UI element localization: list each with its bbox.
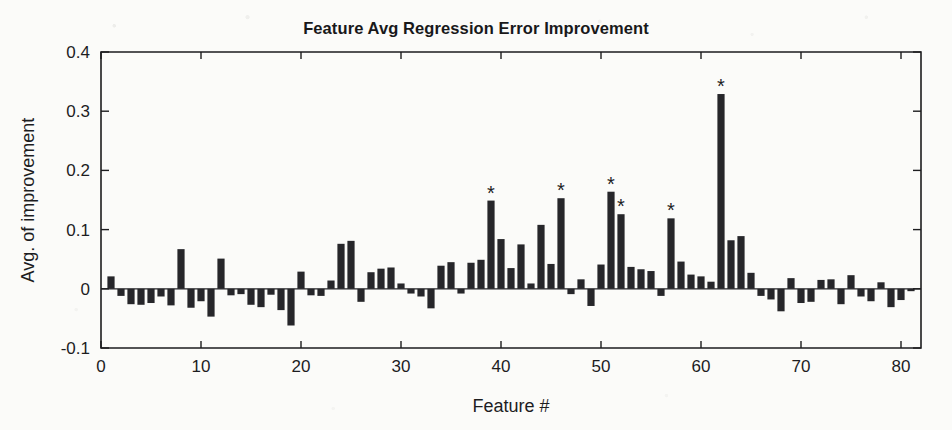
y-tick-label: 0.4	[66, 43, 90, 62]
bar	[187, 289, 194, 308]
bar	[677, 262, 684, 289]
bar	[287, 289, 294, 326]
bar	[477, 260, 484, 289]
x-tick-label: 10	[192, 357, 211, 376]
bar	[417, 289, 424, 297]
bar	[217, 259, 224, 289]
bar	[577, 279, 584, 288]
bar	[877, 282, 884, 289]
bar	[607, 192, 614, 289]
significance-markers-group: ******	[487, 75, 725, 221]
bar	[547, 264, 554, 289]
bar	[537, 225, 544, 289]
bar	[467, 263, 474, 289]
bar	[597, 265, 604, 289]
bar	[737, 236, 744, 289]
bar	[257, 289, 264, 307]
bar	[147, 289, 154, 303]
bar	[857, 289, 864, 297]
bar	[627, 267, 634, 289]
bar	[407, 289, 414, 294]
bars-group	[107, 94, 914, 325]
bar	[317, 289, 324, 296]
y-tick-label: 0.1	[66, 221, 90, 240]
bar	[157, 289, 164, 297]
bar	[387, 267, 394, 288]
x-tick-labels: 01020304050607080	[96, 357, 910, 376]
y-axis-title: Avg. of improvement	[18, 118, 38, 283]
bar	[757, 289, 764, 296]
bar	[107, 276, 114, 288]
bar	[667, 218, 674, 288]
bar	[717, 94, 724, 289]
bar	[227, 289, 234, 296]
bar	[697, 276, 704, 288]
x-tick-label: 40	[492, 357, 511, 376]
bar	[427, 289, 434, 309]
bar	[177, 249, 184, 289]
bar	[807, 289, 814, 302]
bar	[197, 289, 204, 301]
x-tick-label: 50	[592, 357, 611, 376]
significance-star-icon: *	[557, 179, 565, 201]
x-tick-label: 30	[392, 357, 411, 376]
y-tick-label: -0.1	[61, 339, 90, 358]
bar	[347, 241, 354, 289]
bar	[517, 244, 524, 288]
bar	[237, 289, 244, 294]
bar	[837, 289, 844, 304]
bar	[817, 280, 824, 289]
bar	[327, 281, 334, 289]
bar	[447, 262, 454, 289]
bar	[897, 289, 904, 300]
y-tick-label: 0.3	[66, 102, 90, 121]
bar	[497, 239, 504, 289]
bar	[747, 273, 754, 289]
bar	[377, 269, 384, 289]
axes-group	[101, 52, 921, 348]
significance-star-icon: *	[617, 195, 625, 217]
bar	[777, 289, 784, 312]
bar	[557, 198, 564, 289]
x-axis-title: Feature #	[472, 396, 549, 416]
bar	[297, 272, 304, 289]
y-tick-label: 0.2	[66, 161, 90, 180]
bar	[657, 289, 664, 296]
bar	[637, 269, 644, 289]
bar	[647, 271, 654, 289]
bar	[367, 272, 374, 289]
bar	[707, 282, 714, 289]
bar	[847, 275, 854, 289]
bar	[247, 289, 254, 305]
x-tick-label: 70	[792, 357, 811, 376]
bar	[207, 289, 214, 317]
bar	[397, 283, 404, 288]
significance-star-icon: *	[717, 75, 725, 97]
bar	[167, 289, 174, 306]
bar	[267, 289, 274, 295]
significance-star-icon: *	[487, 182, 495, 204]
bar	[117, 289, 124, 296]
bar	[827, 279, 834, 288]
bar	[457, 289, 464, 294]
bar	[797, 289, 804, 303]
x-tick-label: 80	[892, 357, 911, 376]
bar	[127, 289, 134, 304]
bar	[357, 289, 364, 302]
bar-chart-plot: ****** 01020304050607080 -0.100.10.20.30…	[0, 0, 952, 430]
plot-border	[101, 52, 921, 348]
significance-star-icon: *	[667, 199, 675, 221]
x-tick-label: 60	[692, 357, 711, 376]
bar	[137, 289, 144, 305]
y-tick-label: 0	[81, 280, 90, 299]
bar	[687, 275, 694, 289]
bar	[437, 266, 444, 289]
x-tick-label: 20	[292, 357, 311, 376]
bar	[617, 214, 624, 289]
bar	[307, 289, 314, 296]
bar	[887, 289, 894, 307]
bar	[727, 240, 734, 289]
bar	[567, 289, 574, 294]
bar	[487, 201, 494, 289]
significance-star-icon: *	[607, 173, 615, 195]
